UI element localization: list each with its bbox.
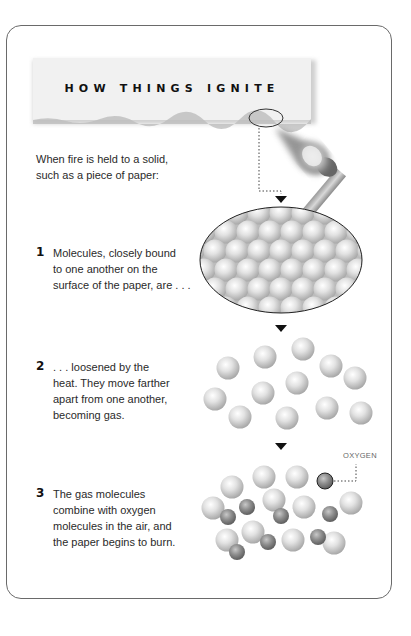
loose-gas-molecules	[204, 338, 373, 430]
oxygen-connector	[334, 464, 356, 481]
down-arrow-icon	[275, 196, 287, 203]
torn-edge	[33, 110, 311, 132]
illustration-layer	[0, 0, 411, 636]
tightly-packed-molecules	[182, 202, 381, 320]
dotted-connector	[259, 128, 281, 194]
oxygen-molecule-highlight	[317, 473, 333, 489]
down-arrow-icon	[275, 325, 287, 332]
down-arrow-icon	[275, 443, 287, 450]
gas-and-oxygen-molecules	[202, 466, 363, 561]
